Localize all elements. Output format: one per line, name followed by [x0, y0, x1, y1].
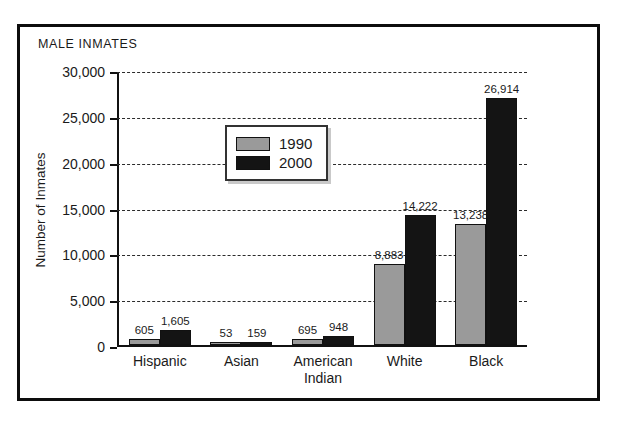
bar-2000[interactable]	[405, 215, 436, 345]
bar-2000[interactable]	[241, 342, 272, 345]
bar-column-2000: 14,222	[405, 72, 436, 345]
bar-column-1990: 695	[292, 72, 323, 345]
legend-swatch-2000-icon	[236, 156, 270, 170]
bar-column-2000: 948	[323, 72, 354, 345]
bar-value-label: 1,605	[161, 315, 190, 327]
bar-1990[interactable]	[455, 224, 486, 345]
bar-group: 13,23826,914Black	[445, 72, 527, 345]
legend-label-1990: 1990	[279, 135, 312, 152]
chart-title: MALE INMATES	[38, 37, 137, 51]
bar-pair: 13,23826,914	[445, 72, 527, 345]
bar-value-label: 605	[135, 324, 154, 336]
x-axis-category-label: AmericanIndian	[282, 353, 364, 387]
bar-1990[interactable]	[374, 264, 405, 345]
bar-value-label: 8,883	[375, 249, 404, 261]
bar-2000[interactable]	[323, 336, 354, 345]
bar-group: 53159Asian	[201, 72, 283, 345]
bar-group: 695948AmericanIndian	[282, 72, 364, 345]
y-tick-mark	[110, 347, 117, 349]
bar-2000[interactable]	[160, 330, 191, 345]
bar-column-2000: 26,914	[486, 72, 517, 345]
bar-column-1990: 605	[129, 72, 160, 345]
chart-legend: 1990 2000	[225, 125, 328, 181]
x-axis-category-label: Black	[445, 353, 527, 370]
y-tick-label: 10,000	[62, 247, 105, 263]
bar-value-label: 53	[219, 327, 232, 339]
bar-value-label: 948	[329, 321, 348, 333]
bar-pair: 8,88314,222	[364, 72, 446, 345]
x-axis-category-label: White	[364, 353, 446, 370]
bar-value-label: 13,238	[453, 209, 488, 221]
y-tick-mark	[110, 255, 117, 257]
bar-column-1990: 13,238	[455, 72, 486, 345]
y-tick-label: 25,000	[62, 110, 105, 126]
y-tick-label: 15,000	[62, 202, 105, 218]
y-tick-mark	[110, 72, 117, 74]
y-tick-mark	[110, 164, 117, 166]
bar-group: 6051,605Hispanic	[119, 72, 201, 345]
x-axis-category-label: Hispanic	[119, 353, 201, 370]
y-tick-mark	[110, 210, 117, 212]
y-tick-mark	[110, 301, 117, 303]
bar-2000[interactable]	[486, 98, 517, 345]
y-axis-title: Number of Inmates	[33, 152, 48, 267]
bar-pair: 6051,605	[119, 72, 201, 345]
bar-pair: 695948	[282, 72, 364, 345]
bar-group: 8,88314,222White	[364, 72, 446, 345]
bar-column-2000: 159	[241, 72, 272, 345]
legend-swatch-1990-icon	[236, 137, 270, 151]
plot-area: 05,00010,00015,00020,00025,00030,000 Num…	[117, 72, 527, 347]
bar-value-label: 695	[298, 324, 317, 336]
y-tick-label: 0	[97, 339, 105, 355]
bar-value-label: 159	[247, 327, 266, 339]
bar-pair: 53159	[201, 72, 283, 345]
bar-1990[interactable]	[210, 342, 241, 345]
x-axis-category-label: Asian	[201, 353, 283, 370]
bar-1990[interactable]	[292, 339, 323, 345]
bar-value-label: 26,914	[484, 83, 519, 95]
y-tick-label: 20,000	[62, 156, 105, 172]
y-tick-label: 30,000	[62, 64, 105, 80]
legend-item-1990: 1990	[236, 134, 312, 153]
bar-column-1990: 53	[210, 72, 241, 345]
legend-item-2000: 2000	[236, 153, 312, 172]
bar-value-label: 14,222	[402, 200, 437, 212]
bar-1990[interactable]	[129, 339, 160, 345]
bar-groups: 6051,605Hispanic53159Asian695948American…	[119, 72, 527, 345]
x-axis-line	[117, 345, 527, 347]
chart-frame: MALE INMATES 05,00010,00015,00020,00025,…	[17, 24, 600, 401]
bar-column-2000: 1,605	[160, 72, 191, 345]
y-tick-label: 5,000	[70, 293, 105, 309]
legend-label-2000: 2000	[279, 154, 312, 171]
y-tick-mark	[110, 118, 117, 120]
bar-column-1990: 8,883	[374, 72, 405, 345]
